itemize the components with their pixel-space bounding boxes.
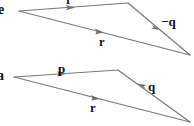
- upper-top-edge-line: [19, 3, 128, 11]
- upper-top-vector-label: r: [66, 0, 72, 7]
- lower-bottom-edge-line: [14, 77, 190, 122]
- lower-right-arrowhead: [137, 84, 146, 90]
- lower-top-vector-label: p: [58, 62, 65, 75]
- lower-bottom-vector-label: r: [90, 102, 96, 115]
- upper-edge-letter: e: [0, 3, 4, 17]
- lower-right-edge-line: [118, 70, 190, 122]
- lower-triangle-group: [14, 70, 190, 122]
- lower-bottom-arrowhead: [91, 95, 100, 101]
- lower-right-vector-label: q: [148, 80, 155, 93]
- lower-edge-letter: a: [0, 69, 4, 83]
- lower-top-edge-line: [14, 70, 118, 77]
- upper-right-vector-label: −q: [161, 15, 176, 28]
- upper-bottom-vector-label: r: [99, 36, 105, 49]
- vector-diagram-figure: e r −q r a p q r: [0, 0, 194, 126]
